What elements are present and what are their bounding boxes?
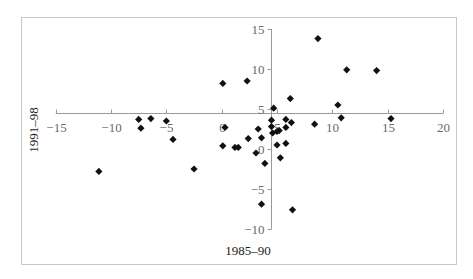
y-tick-label: −5: [251, 182, 265, 197]
scatter-chart: −15−10−505101520 151050−5−10 1985–90 199…: [0, 0, 473, 279]
y-tick-label: 5: [258, 102, 265, 117]
x-tick-label: 10: [326, 120, 339, 135]
y-tick-label: 0: [258, 142, 265, 157]
y-tick-label: 10: [252, 62, 265, 77]
y-tick-label: 15: [252, 22, 265, 37]
y-axis-title: 1991–98: [26, 107, 41, 153]
x-tick-label: 15: [382, 120, 395, 135]
x-tick-label: −15: [46, 120, 66, 135]
x-tick-label: −10: [101, 120, 121, 135]
y-tick-label: −10: [244, 222, 264, 237]
chart-frame: [22, 18, 457, 265]
x-axis-title: 1985–90: [225, 243, 271, 258]
x-tick-label: 20: [437, 120, 450, 135]
